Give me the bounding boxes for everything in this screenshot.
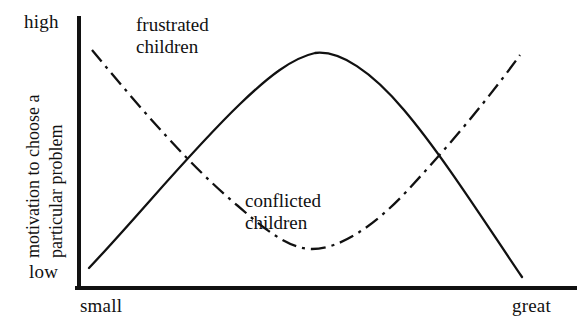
x-axis-small-label: small <box>80 296 122 315</box>
frustrated-children-label-line-2: children <box>136 36 209 58</box>
x-axis-great-label: great <box>512 296 551 315</box>
y-axis-low-label: low <box>29 262 58 281</box>
y-axis-title-line-1: motivation to choose a <box>24 95 42 258</box>
frustrated-children-label-line-1: frustrated <box>136 14 209 36</box>
conflicted-children-label: conflicted children <box>245 190 321 235</box>
y-axis-high-label: high <box>24 12 59 31</box>
frustrated-children-label: frustrated children <box>136 14 209 59</box>
y-axis-title-line-2: particular problem <box>47 125 65 258</box>
chart-figure: high low small great motivation to choos… <box>0 0 583 326</box>
curve-conflicted-children <box>89 53 522 277</box>
conflicted-children-label-line-2: children <box>245 212 321 234</box>
conflicted-children-label-line-1: conflicted <box>245 190 321 212</box>
plot-area <box>0 0 583 326</box>
